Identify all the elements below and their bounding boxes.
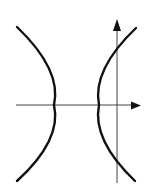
left-branch-curve (17, 27, 55, 181)
x-axis-arrow-icon (131, 102, 141, 110)
hyperbola-diagram (0, 0, 144, 187)
y-axis-arrow-icon (113, 19, 121, 31)
